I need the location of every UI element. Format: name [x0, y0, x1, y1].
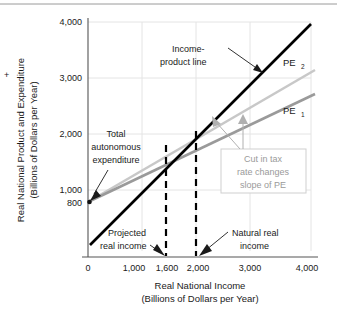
y-tick-800: 800: [67, 198, 82, 208]
projected-annot-line2: real income: [100, 241, 147, 251]
cut-tax-line2: rate changes: [237, 167, 290, 177]
pe2-label-text: PE: [283, 57, 296, 68]
x-tick-2000: 2,000: [187, 263, 210, 273]
x-tick-3000: 3,000: [239, 263, 262, 273]
income-product-annot-line2: product line: [160, 57, 207, 67]
figure-container: 4,000 3,000 2,000 1,000 800 0 1,000 1,60…: [0, 0, 337, 318]
x-tick-1000: 1,000: [123, 263, 146, 273]
total-auto-annot-line3: expenditure: [92, 155, 139, 165]
y-tick-1000: 1,000: [59, 185, 82, 195]
cut-tax-line1: Cut in tax: [244, 154, 283, 164]
pe2-label-subscript: 2: [301, 63, 305, 70]
income-product-annot-line1: Income-: [172, 44, 205, 54]
y-axis-title-line2: (Billions of Dollars per Year): [28, 81, 39, 198]
projected-annot-line1: Projected: [108, 228, 146, 238]
chart-svg: 4,000 3,000 2,000 1,000 800 0 1,000 1,60…: [0, 0, 337, 318]
x-tick-0: 0: [85, 263, 90, 273]
x-axis-title-line2: (Billions of Dollars per Year): [141, 293, 258, 304]
natural-annot-line1: Natural real: [232, 228, 279, 238]
y-tick-2000: 2,000: [59, 129, 82, 139]
cut-tax-line3: slope of PE: [240, 180, 286, 190]
x-axis-title-line1: Real National Income: [155, 280, 246, 291]
total-auto-annot-line1: Total: [106, 129, 125, 139]
x-tick-1600: 1,600: [156, 263, 179, 273]
y-tick-3000: 3,000: [59, 73, 82, 83]
pe1-label-text: PE: [283, 105, 296, 116]
x-tick-4000: 4,000: [296, 263, 319, 273]
pe1-label-subscript: 1: [301, 111, 305, 118]
y-tick-4000: 4,000: [59, 17, 82, 27]
total-auto-annot-line2: autonomous: [91, 142, 141, 152]
left-edge-mark: +: [4, 70, 9, 80]
y-axis-title-line1: Real National Product and Expenditure: [15, 58, 26, 222]
natural-annot-line2: income: [240, 241, 269, 251]
